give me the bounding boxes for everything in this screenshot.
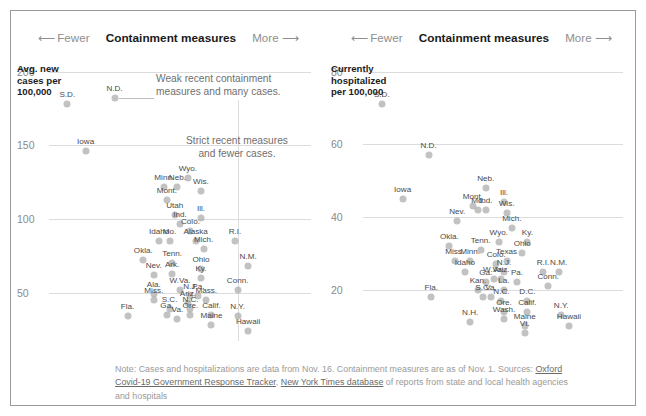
- data-point[interactable]: [208, 322, 215, 329]
- panel-title-left: Containment measures: [106, 31, 236, 45]
- data-point[interactable]: [482, 206, 489, 213]
- data-point-label: Ky.: [195, 264, 206, 273]
- panel-header-left: ⟵ Fewer Containment measures More ⟶: [11, 29, 325, 47]
- data-point-label: D.C.: [519, 287, 535, 296]
- data-point[interactable]: [519, 250, 526, 257]
- data-point[interactable]: [197, 275, 204, 282]
- data-point[interactable]: [156, 238, 163, 245]
- screenshot-root: ⟵ Fewer Containment measures More ⟶ Avg.…: [0, 0, 646, 416]
- data-point-label: Conn.: [537, 272, 559, 281]
- annotation-connector: [119, 98, 155, 99]
- data-point-label: Idaho: [455, 258, 475, 267]
- data-point[interactable]: [399, 195, 406, 202]
- data-point[interactable]: [428, 294, 435, 301]
- data-point[interactable]: [150, 297, 157, 304]
- data-point-label: Mich.: [194, 235, 213, 244]
- data-point-label: Ore.: [183, 301, 199, 310]
- data-point[interactable]: [174, 316, 181, 323]
- data-point-label: Ark.: [165, 260, 179, 269]
- data-point[interactable]: [521, 330, 528, 337]
- more-label-right: More ⟶: [565, 31, 611, 45]
- data-point-label: R.I.: [537, 258, 550, 267]
- data-point[interactable]: [454, 217, 461, 224]
- annotation-weak: Weak recent containment measures and man…: [156, 73, 281, 99]
- footnote: Note: Cases and hospitalizations are dat…: [115, 363, 585, 403]
- footnote-note: Note: Cases and hospitalizations are dat…: [115, 364, 533, 374]
- data-point-label: R.I.: [229, 227, 242, 236]
- data-point-label: Nev.: [449, 207, 465, 216]
- data-point[interactable]: [480, 294, 487, 301]
- data-point-label: Miss.: [144, 286, 163, 295]
- data-point-label: N.M.: [550, 258, 567, 267]
- right-arrow-icon: ⟶: [595, 31, 611, 45]
- data-point[interactable]: [163, 311, 170, 318]
- data-point[interactable]: [482, 184, 489, 191]
- y-axis-tick: 40: [331, 211, 343, 223]
- data-point-label: Ill.: [197, 204, 205, 213]
- data-point[interactable]: [150, 272, 157, 279]
- y-axis-tick: 100: [17, 213, 35, 225]
- data-point-label: Pa.: [511, 268, 523, 277]
- left-arrow-icon: ⟵: [38, 31, 54, 45]
- data-point[interactable]: [501, 315, 508, 322]
- data-point[interactable]: [232, 238, 239, 245]
- data-point-label: Fla.: [121, 302, 135, 311]
- data-point-label: Okla.: [440, 232, 459, 241]
- data-point-label: Ohio: [192, 255, 209, 264]
- data-point-label: Mo.: [163, 227, 177, 236]
- data-point-label: Mass.: [195, 286, 217, 295]
- data-point[interactable]: [425, 152, 432, 159]
- source-link-nyt[interactable]: New York Times database: [281, 377, 384, 387]
- data-point-label: Tenn.: [162, 249, 182, 258]
- data-point-label: Wash.: [493, 305, 516, 314]
- data-point[interactable]: [111, 95, 118, 102]
- data-point[interactable]: [64, 101, 71, 108]
- annotation-strict: Strict recent measures and fewer cases.: [186, 135, 288, 161]
- fewer-label-right: ⟵ Fewer: [351, 31, 402, 45]
- data-point[interactable]: [245, 263, 252, 270]
- y-axis-tick: 20: [331, 284, 343, 296]
- data-point[interactable]: [495, 239, 502, 246]
- data-point[interactable]: [508, 224, 515, 231]
- data-point-label: S.D.: [59, 90, 75, 99]
- data-point[interactable]: [124, 313, 131, 320]
- gridline: [363, 217, 623, 218]
- data-point-label: Tenn.: [471, 236, 491, 245]
- data-point-label: Colo.: [181, 217, 200, 226]
- data-point-label: N.Y.: [230, 302, 245, 311]
- data-point-label: Wyo.: [179, 164, 197, 173]
- data-point-label: Ind.: [479, 196, 493, 205]
- data-point-label: Hawaii: [236, 317, 260, 326]
- data-point-label: Wis.: [499, 199, 515, 208]
- y-axis-tick: 150: [17, 139, 35, 151]
- chart-frame: ⟵ Fewer Containment measures More ⟶ Avg.…: [10, 10, 636, 406]
- data-point[interactable]: [467, 319, 474, 326]
- data-point-label: Wyo.: [490, 228, 508, 237]
- data-point[interactable]: [545, 283, 552, 290]
- fewer-label-left: ⟵ Fewer: [38, 31, 89, 45]
- data-point[interactable]: [378, 101, 385, 108]
- gridline: [363, 144, 623, 145]
- data-point-label: Utah: [166, 201, 183, 210]
- y-axis-tick: 50: [17, 287, 29, 299]
- right-arrow-icon: ⟶: [282, 31, 298, 45]
- data-point-label: Maine: [200, 311, 222, 320]
- data-point[interactable]: [566, 323, 573, 330]
- data-point-label: Okla.: [134, 246, 153, 255]
- scatter-plot-hospitalized: Currently hospitalized per 100,000 80604…: [325, 51, 637, 351]
- data-point[interactable]: [234, 286, 241, 293]
- data-point[interactable]: [166, 238, 173, 245]
- data-point-label: Wis.: [193, 177, 209, 186]
- data-point[interactable]: [475, 206, 482, 213]
- data-point-label: N.H.: [462, 308, 478, 317]
- data-point-label: Mont.: [157, 186, 177, 195]
- data-point[interactable]: [82, 148, 89, 155]
- data-point[interactable]: [200, 245, 207, 252]
- data-point[interactable]: [197, 188, 204, 195]
- data-point[interactable]: [514, 279, 521, 286]
- data-point-label: Ky.: [522, 228, 533, 237]
- data-point[interactable]: [462, 268, 469, 275]
- fewer-text: Fewer: [57, 32, 89, 44]
- data-point[interactable]: [245, 328, 252, 335]
- data-point[interactable]: [187, 311, 194, 318]
